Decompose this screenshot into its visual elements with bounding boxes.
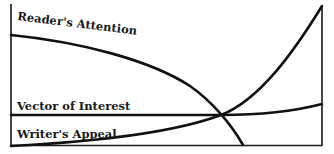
vector-of-interest-label: Vector of Interest xyxy=(16,99,131,113)
concept-chart: Reader's Attention Vector of Interest Wr… xyxy=(0,0,334,154)
readers-attention-label: Reader's Attention xyxy=(17,9,139,38)
writers-appeal-label: Writer's Appeal xyxy=(16,127,117,141)
